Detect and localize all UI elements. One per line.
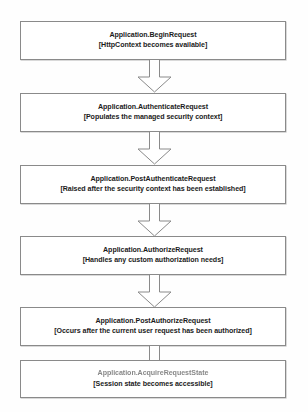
flow-node-title: Application.BeginRequest bbox=[109, 31, 196, 40]
flow-node-authorize-request: Application.AuthorizeRequest [Handles an… bbox=[20, 236, 286, 275]
arrow-down-icon bbox=[137, 275, 172, 308]
arrow-down-icon bbox=[137, 132, 172, 165]
flow-node-subtitle: [Handles any custom authorization needs] bbox=[83, 256, 224, 265]
request-lifecycle-flow-diagram: Application.BeginRequest [HttpContext be… bbox=[0, 0, 308, 412]
flow-connector-arrow-down bbox=[137, 60, 172, 93]
flow-node-post-authorize-request: Application.PostAuthorizeRequest [Occurs… bbox=[20, 307, 286, 346]
flow-node-title: Application.PostAuthenticateRequest bbox=[90, 175, 215, 184]
flow-node-subtitle: [Session state becomes accessible] bbox=[93, 380, 212, 389]
flow-node-subtitle: [Occurs after the current user request h… bbox=[54, 327, 252, 336]
arrow-down-icon bbox=[137, 60, 172, 93]
flow-node-acquire-request-state: Application.AcquireRequestState [Session… bbox=[20, 360, 286, 398]
flow-connector-arrow-down bbox=[137, 132, 172, 165]
flow-node-subtitle: [Raised after the security context has b… bbox=[60, 185, 245, 194]
flow-node-subtitle: [HttpContext becomes available] bbox=[99, 41, 207, 50]
flow-connector-arrow-down bbox=[137, 204, 172, 237]
flow-node-title: Application.AuthorizeRequest bbox=[103, 246, 203, 255]
flow-node-title: Application.AuthenticateRequest bbox=[98, 103, 208, 112]
flow-connector-arrow-down bbox=[137, 275, 172, 308]
flow-node-title: Application.AcquireRequestState bbox=[98, 369, 209, 378]
flow-node-authenticate-request: Application.AuthenticateRequest [Populat… bbox=[20, 93, 286, 132]
flow-node-post-authenticate-request: Application.PostAuthenticateRequest [Rai… bbox=[20, 165, 286, 204]
flow-node-begin-request: Application.BeginRequest [HttpContext be… bbox=[20, 21, 286, 60]
flow-node-subtitle: [Populates the managed security context] bbox=[84, 113, 223, 122]
flow-node-title: Application.PostAuthorizeRequest bbox=[95, 317, 210, 326]
arrow-down-icon bbox=[137, 204, 172, 237]
